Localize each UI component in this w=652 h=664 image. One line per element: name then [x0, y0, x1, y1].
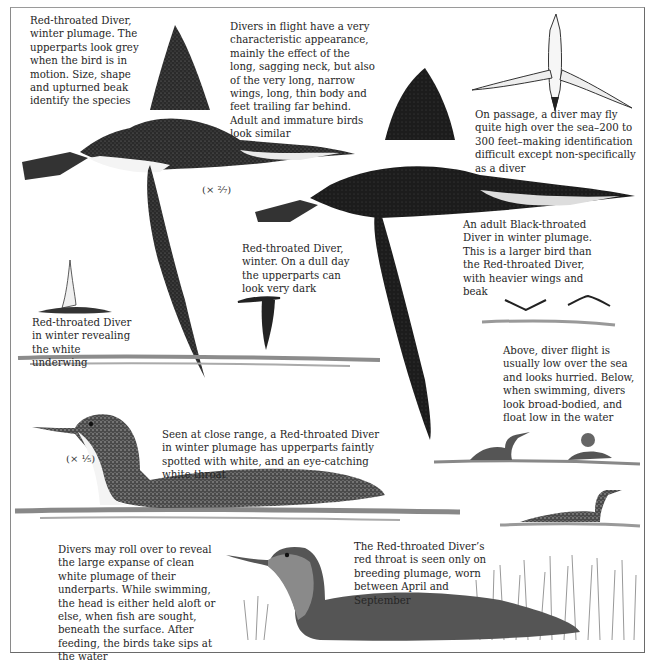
caption-breeding-throat: The Red-throated Diver’s red throat is s…: [354, 540, 499, 607]
caption-black-throated-adult: An adult Black-throated Diver in winter …: [463, 218, 603, 298]
red-throated-diver-dark-flight: [238, 297, 280, 350]
caption-roll-over: Divers may roll over to reveal the large…: [58, 543, 218, 664]
diver-banking-white-underwing: [38, 260, 112, 314]
caption-white-underwing: Red-throated Diver in winter revealing t…: [32, 316, 132, 370]
caption-flight-appearance: Divers in flight have a very characteris…: [230, 20, 375, 141]
caption-dull-day: Red-throated Diver, winter. On a dull da…: [242, 242, 352, 296]
diver-high-passage-underside: [472, 14, 632, 112]
caption-close-range: Seen at close range, a Red-throated Dive…: [162, 428, 380, 482]
scale-label-flight: (× ²⁄₇): [202, 184, 231, 195]
scale-label-swim: (× ¹⁄₅): [66, 453, 95, 464]
caption-on-passage: On passage, a diver may fly quite high o…: [475, 108, 647, 175]
caption-red-throated-winter: Red-throated Diver, winter plumage. The …: [30, 14, 140, 108]
divers-swimming-group: [470, 432, 622, 522]
caption-flight-low: Above, diver flight is usually low over …: [503, 344, 643, 424]
